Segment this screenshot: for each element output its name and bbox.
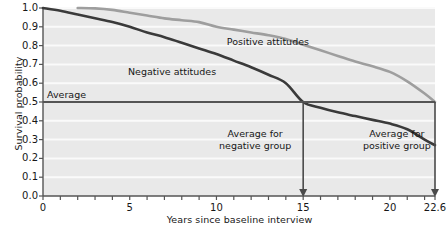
y-axis-tick-labels: 0.00.10.20.30.40.50.60.70.80.91.0 [0, 0, 38, 233]
y-tick-label: 0.1 [4, 172, 38, 182]
average-line-label: Average [47, 89, 86, 100]
y-tick-label: 0.6 [4, 78, 38, 88]
y-tick-label: 0.8 [4, 41, 38, 51]
y-tick-label: 1.0 [4, 3, 38, 13]
survival-probability-chart: Survival probability 0.00.10.20.30.40.50… [0, 0, 447, 233]
y-tick-label: 0.2 [4, 153, 38, 163]
x-axis-title: Years since baseline interview [43, 214, 436, 225]
y-tick-label: 0.7 [4, 59, 38, 69]
y-tick-label: 0.9 [4, 22, 38, 32]
y-tick-label: 0.5 [4, 97, 38, 107]
y-tick-label: 0.3 [4, 135, 38, 145]
y-tick-label: 0.4 [4, 116, 38, 126]
plot-area [0, 0, 447, 233]
y-tick-label: 0.0 [4, 191, 38, 201]
